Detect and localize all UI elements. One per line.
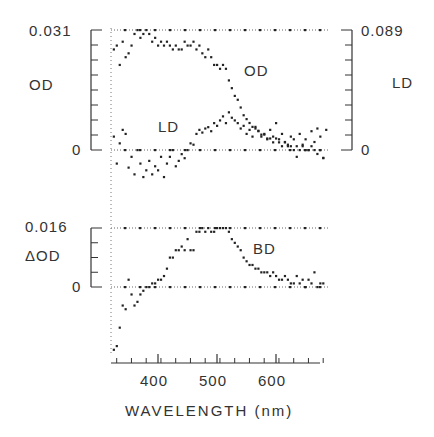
bd-annotation: BD [253,240,276,257]
bottom-zero-label: 0 [72,278,81,295]
x-tick-500: 500 [199,372,227,389]
top-right-max-label: 0.089 [361,22,404,39]
ld-annotation: LD [158,118,179,135]
top-left-zero-label: 0 [72,141,81,158]
bottom-max-label: 0.016 [25,218,68,235]
top-left-max-label: 0.031 [29,22,72,39]
top-right-zero-label: 0 [361,141,370,158]
x-tick-600: 600 [258,372,286,389]
x-tick-400: 400 [140,372,168,389]
top-left-axis-label: OD [29,76,54,93]
od-annotation: OD [244,62,269,79]
bottom-axis-label: ΔOD [25,247,61,264]
x-axis-label: WAVELENGTH (nm) [125,402,293,419]
top-right-axis-label: LD [392,74,413,91]
